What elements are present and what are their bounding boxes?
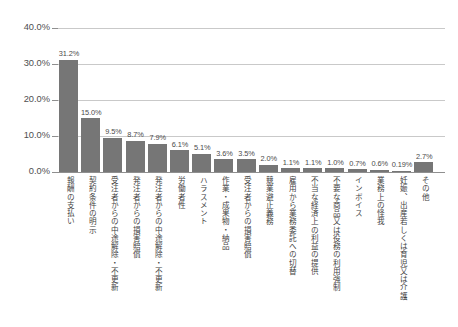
category-label-slot: 作業・成果物・納品 [213,176,235,324]
category-label: 契約条件の明示 [86,176,96,234]
bar-value-label: 0.6% [372,159,388,168]
category-label-slot: 報酬の支払い [58,176,80,324]
category-label-slot: 受注者からの損害賠償 [236,176,258,324]
y-axis-tick-label: 10.0% [6,130,50,140]
category-label-slot: 業務上の怪我 [369,176,391,324]
axis-baseline [58,172,445,173]
bar [103,138,122,172]
bar [370,170,389,172]
category-label-slot: 妊娠、出産若しくは育児又は介護 [391,176,413,324]
category-label: その他 [419,176,429,201]
category-label-slot: 労働者性 [169,176,191,324]
category-label: 雇用から業務委託への切替 [286,176,296,275]
category-label-slot: インボイス [347,176,369,324]
bar [259,165,278,172]
y-axis-tick-label: 0.0% [6,166,50,176]
bar [392,171,411,173]
category-label-slot: 受注者からの中途解除・不更新 [102,176,124,324]
bar [126,141,145,172]
bar [303,168,322,172]
bar-value-label: 5.1% [194,143,210,152]
category-label: 作業・成果物・納品 [219,176,229,250]
bar-value-label: 3.5% [238,149,254,158]
category-label-slot: 発注者からの損害賠償 [125,176,147,324]
category-label-slot: 不要な商品又は役務の利用強制 [324,176,346,324]
bar-series: 31.2%15.0%9.5%8.7%7.9%6.1%5.1%3.6%3.5%2.… [58,28,445,172]
bar-value-label: 9.5% [105,127,121,136]
category-label: 競業避止義務 [264,176,274,226]
bar-value-label: 1.1% [283,158,299,167]
bar [148,144,167,172]
bar-value-label: 7.9% [150,133,166,142]
category-label-slot: 雇用から業務委託への切替 [280,176,302,324]
category-label: ハラスメント [197,176,207,226]
bar [170,150,189,172]
bar [192,154,211,172]
bar-value-label: 8.7% [127,130,143,139]
category-label: インボイス [353,176,363,217]
category-label-slot: 発注者からの中途解除・不更新 [147,176,169,324]
category-label: 不要な商品又は役務の利用強制 [330,176,340,292]
category-label-slot: 競業避止義務 [258,176,280,324]
bar [214,159,233,172]
bar-value-label: 0.19% [392,160,412,169]
bar-chart: 0.0%10.0%20.0%30.0%40.0% 31.2%15.0%9.5%8… [0,0,458,327]
y-axis-tick-label: 30.0% [6,58,50,68]
bar [59,60,78,172]
bar [237,159,256,172]
category-label: 労働者性 [175,176,185,209]
y-axis-tick-label: 40.0% [6,22,50,32]
bar [281,168,300,172]
bar [414,162,433,172]
x-axis-categories: 報酬の支払い契約条件の明示受注者からの中途解除・不更新発注者からの損害賠償発注者… [58,176,445,324]
category-label: 業務上の怪我 [375,176,385,226]
bar [81,118,100,172]
bar-value-label: 2.7% [416,152,432,161]
y-axis-tick-label: 20.0% [6,94,50,104]
category-label: 受注者からの中途解除・不更新 [108,176,118,292]
bar-value-label: 0.7% [349,159,365,168]
bar-value-label: 31.2% [59,49,79,58]
category-label: 報酬の支払い [64,176,74,226]
bar-value-label: 6.1% [172,140,188,149]
category-label: 受注者からの損害賠償 [242,176,252,259]
category-label-slot: ハラスメント [191,176,213,324]
category-label-slot: その他 [413,176,435,324]
category-label-slot: 不当な経済上の利益の提供 [302,176,324,324]
bar [325,168,344,172]
bar-value-label: 1.0% [327,158,343,167]
bar-value-label: 1.1% [305,158,321,167]
category-label: 発注者からの中途解除・不更新 [153,176,163,292]
category-label: 発注者からの損害賠償 [131,176,141,259]
bar-value-label: 2.0% [261,154,277,163]
bar-value-label: 15.0% [81,108,101,117]
category-label: 不当な経済上の利益の提供 [308,176,318,275]
category-label: 妊娠、出産若しくは育児又は介護 [397,176,407,300]
bar-value-label: 3.6% [216,149,232,158]
category-label-slot: 契約条件の明示 [80,176,102,324]
bar [348,169,367,172]
